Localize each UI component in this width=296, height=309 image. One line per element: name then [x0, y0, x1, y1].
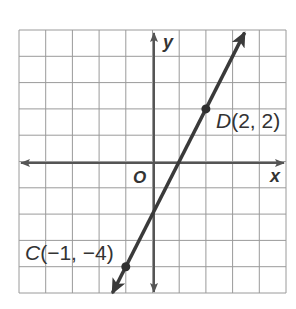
coordinate-graph: y x O D(2, 2) C(−1, −4): [0, 0, 296, 309]
point-d-coords: (2, 2): [231, 109, 280, 132]
point-d-name: D: [216, 109, 231, 132]
point-c-label: C(−1, −4): [25, 241, 114, 264]
x-axis-label: x: [269, 166, 281, 186]
point-d-label: D(2, 2): [216, 109, 280, 132]
point-c: [121, 262, 130, 271]
point-d: [201, 104, 210, 113]
point-c-name: C: [25, 241, 41, 264]
y-axis-label: y: [162, 32, 174, 52]
point-c-coords: (−1, −4): [40, 241, 114, 264]
origin-label: O: [133, 168, 146, 187]
